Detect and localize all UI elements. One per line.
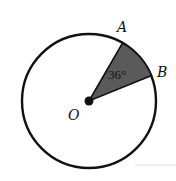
angle-label: 36°: [108, 67, 126, 82]
label-b: B: [156, 64, 167, 80]
center-point: [85, 97, 94, 106]
circle-diagram: A B O 36°: [0, 0, 176, 181]
label-a: A: [115, 19, 127, 35]
label-o: O: [68, 107, 80, 123]
